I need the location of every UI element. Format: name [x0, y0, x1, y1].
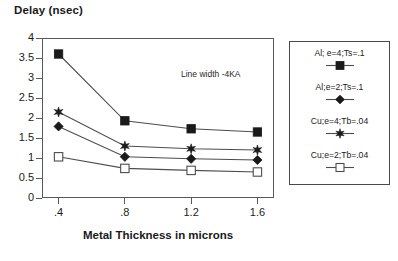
- series-3: [54, 122, 262, 165]
- legend-entry[interactable]: Cu;e=4;Tb=.04: [290, 116, 389, 140]
- legend-label: Al; e=4;Ts=.1: [290, 48, 389, 59]
- series-line: [59, 54, 258, 132]
- series-line: [59, 126, 258, 160]
- legend-label: Cu;e=2;Tb=.04: [290, 150, 389, 161]
- data-point-marker: [187, 154, 196, 163]
- data-point-marker: [253, 128, 261, 136]
- data-point-marker: [54, 122, 63, 131]
- legend-entry[interactable]: Cu;e=2;Tb=.04: [290, 150, 389, 174]
- legend-entry[interactable]: Al; e=4;Ts=.1: [290, 48, 389, 72]
- chart-figure: Delay (nsec) Line width -4KA 00.511.522.…: [0, 0, 398, 261]
- legend-entry[interactable]: Al;e=2;Ts=.1: [290, 82, 389, 106]
- series-1: [54, 50, 261, 136]
- data-point-marker: [187, 166, 195, 174]
- data-point-marker: [120, 152, 129, 161]
- x-axis-title: Metal Thickness in microns: [42, 229, 274, 241]
- legend-marker: [290, 161, 389, 174]
- legend-marker: [290, 93, 389, 106]
- legend-marker: [290, 127, 389, 140]
- legend-label: Al;e=2;Ts=.1: [290, 82, 389, 93]
- legend-marker-glyph-star-icon: [320, 127, 360, 140]
- legend-marker: [290, 59, 389, 72]
- data-point-marker: [121, 117, 129, 125]
- series-4: [54, 153, 261, 177]
- data-point-marker: [54, 50, 62, 58]
- legend-box: Al; e=4;Ts=.1Al;e=2;Ts=.1Cu;e=4;Tb=.04Cu…: [289, 41, 390, 185]
- legend-marker-glyph-open-square-icon: [320, 161, 360, 174]
- data-point-marker: [54, 153, 62, 161]
- data-point-marker: [253, 168, 261, 176]
- legend-marker-glyph-filled-square-icon: [320, 59, 360, 72]
- data-point-marker: [121, 164, 129, 172]
- data-point-marker: [54, 107, 63, 117]
- legend-marker-glyph-filled-diamond-icon: [320, 93, 360, 106]
- data-point-marker: [187, 125, 195, 133]
- data-point-marker: [253, 155, 262, 164]
- legend-label: Cu;e=4;Tb=.04: [290, 116, 389, 127]
